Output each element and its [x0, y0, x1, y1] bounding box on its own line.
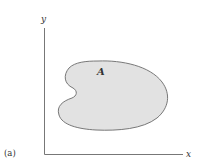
region-a-shape: [58, 61, 167, 130]
region-label: A: [96, 66, 105, 77]
x-axis-label: x: [186, 149, 191, 159]
diagram-figure: A y x (a): [0, 0, 202, 165]
panel-label: (a): [4, 148, 16, 158]
y-axis-label: y: [40, 14, 47, 24]
